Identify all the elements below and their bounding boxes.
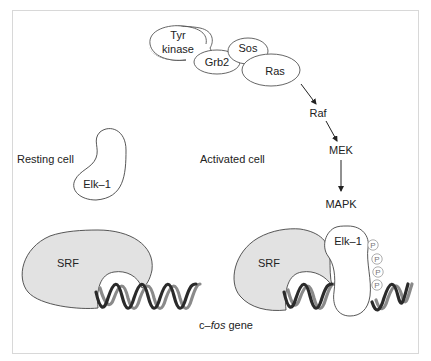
activated-elk1-label: Elk–1 xyxy=(334,235,362,247)
arrow-raf-mek xyxy=(326,121,337,141)
activated-cell-label: Activated cell xyxy=(200,153,265,165)
resting-elk1-label: Elk–1 xyxy=(83,178,111,190)
gene-suffix: gene xyxy=(225,319,253,331)
grb2-label: Grb2 xyxy=(205,56,229,68)
mek-label: MEK xyxy=(329,144,354,156)
resting-dna-helix xyxy=(96,284,200,309)
phosphate-label: P xyxy=(375,268,380,277)
phosphate-label: P xyxy=(374,281,379,290)
mapk-label: MAPK xyxy=(325,198,357,210)
arrow-ras-raf xyxy=(301,84,316,104)
activated-srf-label: SRF xyxy=(258,257,280,269)
phosphate-label: P xyxy=(370,241,375,250)
resting-srf-label: SRF xyxy=(57,257,79,269)
signaling-diagram: Tyr kinase Grb2 Sos Ras Raf MEK MAPK Res… xyxy=(0,0,431,361)
activated-srf-shape xyxy=(234,229,332,311)
raf-label: Raf xyxy=(309,107,327,119)
sos-label: Sos xyxy=(239,42,258,54)
resting-srf-shape xyxy=(22,230,152,308)
gene-name: fos xyxy=(211,319,226,331)
ras-label: Ras xyxy=(265,65,285,77)
kinase-label: kinase xyxy=(162,43,194,55)
phosphate-label: P xyxy=(374,255,379,264)
gene-prefix: c– xyxy=(199,319,212,331)
tyr-label: Tyr xyxy=(170,29,186,41)
resting-cell-label: Resting cell xyxy=(17,153,74,165)
gene-label: c–fos gene xyxy=(199,319,253,331)
